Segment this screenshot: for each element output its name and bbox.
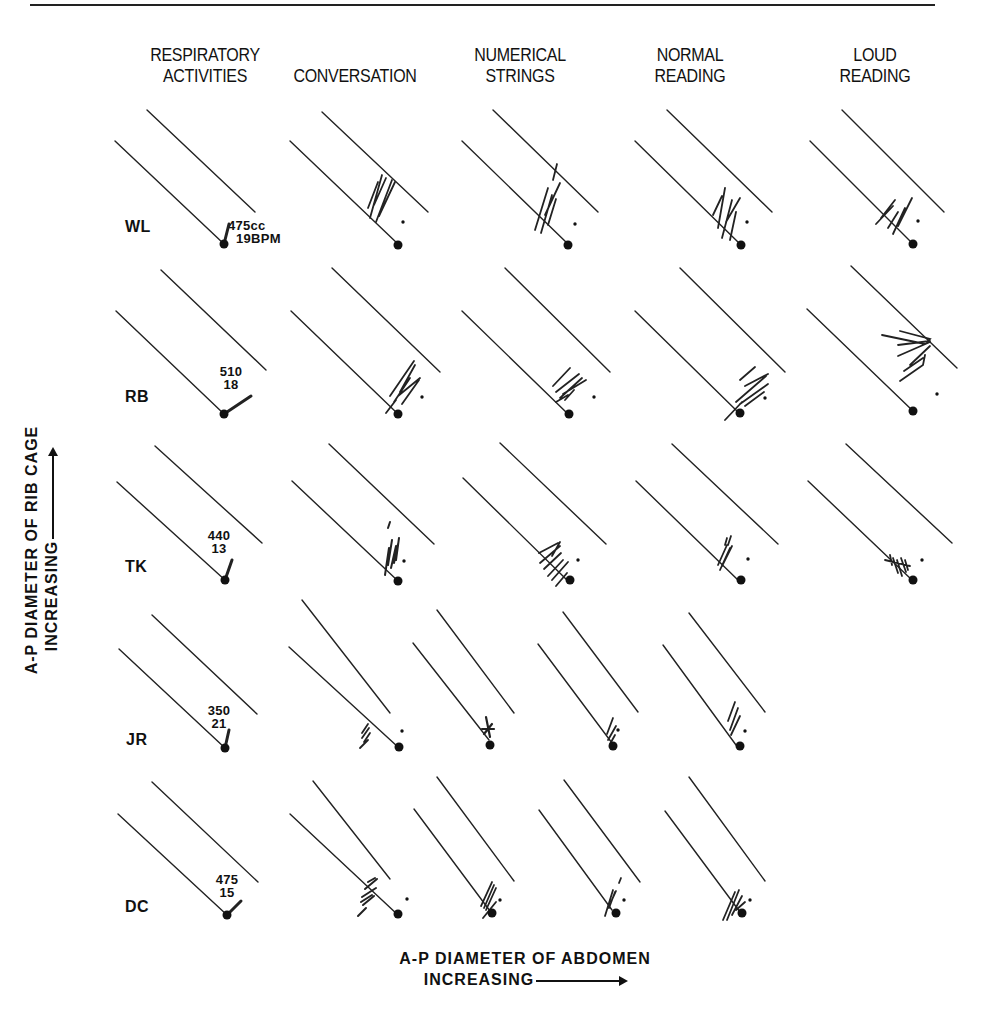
panel-jr-numerical <box>413 610 514 740</box>
panel-rb-conversation <box>291 268 440 414</box>
panel-wl-loud-reading <box>810 110 944 244</box>
panel-dc-numerical <box>414 777 514 918</box>
panel-tk-respiratory <box>117 446 262 580</box>
panel-tk-loud-reading <box>808 444 952 580</box>
panel-rb-normal-reading <box>635 268 785 420</box>
relative-motion-diagram-grid <box>0 0 1002 1028</box>
panel-wl-numerical <box>462 110 598 244</box>
panel-wl-conversation <box>290 112 428 244</box>
panel-jr-loud-reading <box>663 613 765 745</box>
panel-rb-loud-reading <box>807 266 957 411</box>
panel-jr-normal-reading <box>538 612 638 744</box>
panel-tk-conversation <box>292 444 434 581</box>
panel-dc-normal-reading <box>539 780 640 916</box>
panel-wl-respiratory <box>115 110 255 244</box>
panel-jr-respiratory <box>119 615 257 748</box>
panel-wl-normal-reading <box>635 110 772 244</box>
panel-rb-numerical <box>462 268 610 414</box>
panel-dc-conversation <box>290 781 398 916</box>
panel-rb-respiratory <box>116 270 266 414</box>
panel-tk-normal-reading <box>636 444 778 581</box>
panel-dc-respiratory <box>118 782 258 915</box>
panel-jr-conversation <box>289 600 398 748</box>
panel-tk-numerical <box>463 443 606 586</box>
